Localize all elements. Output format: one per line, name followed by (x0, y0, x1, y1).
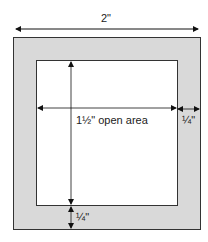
frame-diagram: 2" 1½" open area ¼" ¼" (0, 0, 208, 242)
border-right-label: ¼" (182, 114, 195, 126)
border-bottom-label: ¼" (76, 211, 89, 223)
open-area-label: 1½" open area (76, 114, 149, 126)
open-area (37, 61, 178, 206)
width-label: 2" (101, 12, 111, 24)
